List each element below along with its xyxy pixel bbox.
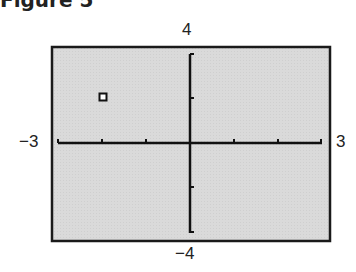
xmax-label: 3 (336, 132, 345, 152)
ymin-label: −4 (175, 244, 194, 264)
xmin-label: −3 (19, 132, 38, 152)
graphing-calculator-screen (0, 0, 356, 272)
ymax-label: 4 (182, 20, 191, 40)
data-point-marker (100, 94, 107, 101)
